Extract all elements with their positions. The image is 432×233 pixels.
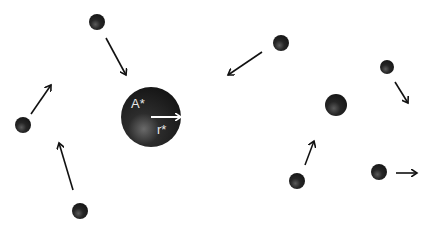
area-label: A* [131,96,145,111]
velocity-arrow-icon [106,38,126,75]
velocity-arrow-icon [395,82,408,103]
particle-sphere [273,35,289,51]
velocity-arrow-icon [228,52,262,75]
velocity-arrow-icon [31,85,51,114]
particle-sphere [72,203,88,219]
particle-sphere [15,117,31,133]
radius-label: r* [157,122,166,137]
velocity-arrow-icon [305,141,314,165]
particle-sphere [289,173,305,189]
particle-sphere [380,60,394,74]
particle-sphere [371,164,387,180]
velocity-arrow-icon [59,143,73,190]
diagram-canvas: A* r* [0,0,432,233]
central-particle: A* r* [121,87,181,147]
particle-sphere [325,94,347,116]
particle-sphere [89,14,105,30]
particles-group [15,14,417,219]
